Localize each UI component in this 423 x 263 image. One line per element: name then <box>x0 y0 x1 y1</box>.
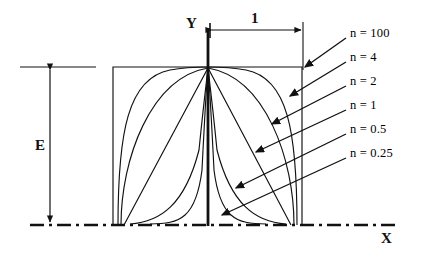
legend-item-n-0-5: n = 0.5 <box>350 122 393 146</box>
x-axis-label: X <box>381 231 392 246</box>
amplitude-dimension-label: E <box>35 138 45 153</box>
legend-item-n-0-25: n = 0.25 <box>350 146 393 170</box>
legend-item-n-2: n = 2 <box>350 74 393 98</box>
legend: n = 100 n = 4 n = 2 n = 1 n = 0.5 n = 0.… <box>350 26 393 170</box>
legend-item-n-1: n = 1 <box>350 98 393 122</box>
legend-item-n-4: n = 4 <box>350 50 393 74</box>
y-axis-label: Y <box>186 16 197 31</box>
width-dimension-label: 1 <box>251 11 259 26</box>
legend-item-n-100: n = 100 <box>350 26 393 50</box>
